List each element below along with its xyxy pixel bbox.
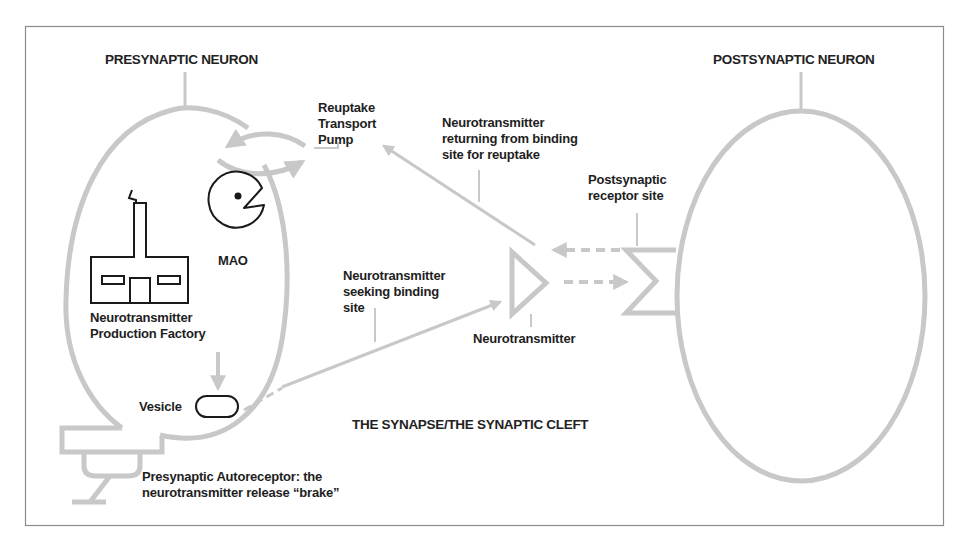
triangle-molecule-icon (512, 252, 546, 314)
presynaptic-heading: PRESYNAPTIC NEURON (105, 52, 258, 68)
factory-label: Neurotransmitter Production Factory (90, 310, 206, 342)
synapse-heading: THE SYNAPSE/THE SYNAPTIC CLEFT (352, 417, 588, 433)
postsynaptic-receptor-label: Postsynaptic receptor site (588, 172, 667, 204)
neurotransmitter-label: Neurotransmitter (473, 331, 575, 347)
vesicle-capsule-icon (196, 396, 238, 417)
notched-receptor-icon (626, 250, 676, 313)
presynaptic-neuron (62, 108, 287, 502)
autoreceptor-label: Presynaptic Autoreceptor: the neurotrans… (142, 469, 339, 501)
reuptake-pump-label: Reuptake Transport Pump (318, 100, 376, 148)
mao-label: MAO (218, 253, 248, 269)
synapse-diagram: PRESYNAPTIC NEURON POSTSYNAPTIC NEURON T… (0, 0, 977, 554)
postsynaptic-neuron (677, 111, 925, 481)
pacman-enzyme-icon (209, 172, 264, 228)
seeking-label: Neurotransmitter seeking binding site (343, 268, 445, 316)
postsynaptic-heading: POSTSYNAPTIC NEURON (713, 52, 875, 68)
autoreceptor-shape (62, 428, 162, 452)
returning-label: Neurotransmitter returning from binding … (442, 115, 578, 163)
vesicle-label: Vesicle (139, 399, 182, 415)
factory-icon (91, 190, 188, 303)
